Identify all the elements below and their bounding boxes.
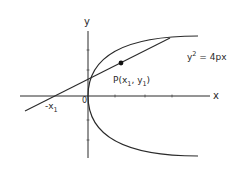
origin-label: 0 — [82, 96, 87, 105]
parabola-diagram: y x 0 y2 = 4px P(x1, y1) -x1 — [0, 0, 234, 174]
x-axis-label: x — [213, 90, 219, 101]
point-p — [119, 61, 124, 66]
point-p-label: P(x1, y1) — [113, 75, 150, 88]
y-axis-label: y — [84, 16, 90, 27]
intercept-label: -x1 — [45, 101, 58, 114]
curve-equation: y2 = 4px — [187, 50, 227, 62]
